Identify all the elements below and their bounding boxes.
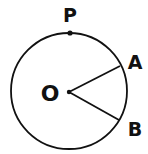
radius-oa <box>69 66 120 92</box>
radius-ob <box>69 92 119 120</box>
point-p <box>67 30 72 35</box>
center-point <box>67 90 71 94</box>
label-o: O <box>41 81 60 106</box>
label-p: P <box>63 4 77 26</box>
circle-diagram: P A B O <box>0 0 148 154</box>
label-b: B <box>128 118 142 140</box>
label-a: A <box>128 51 143 73</box>
